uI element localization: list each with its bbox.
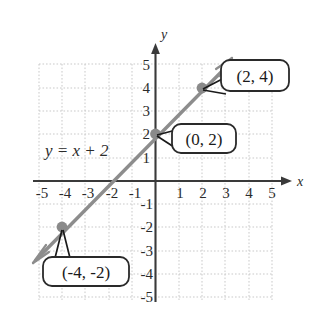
leader-line-neg4-neg2b bbox=[55, 230, 62, 258]
callout-label-0-2: (0, 2) bbox=[186, 130, 223, 149]
x-tick: 5 bbox=[268, 185, 276, 201]
y-tick: 1 bbox=[143, 150, 151, 166]
y-tick: -1 bbox=[141, 196, 154, 212]
y-tick: 5 bbox=[143, 57, 151, 73]
y-tick: 3 bbox=[143, 103, 151, 119]
x-axis-label: x bbox=[296, 174, 304, 189]
leader-line-neg4-neg2 bbox=[63, 230, 70, 258]
y-tick: -3 bbox=[141, 243, 154, 259]
callout-label-neg4-neg2: (-4, -2) bbox=[62, 263, 110, 282]
y-tick: -4 bbox=[141, 266, 154, 282]
y-tick: 4 bbox=[143, 80, 151, 96]
x-tick: 4 bbox=[245, 185, 253, 201]
x-tick: 1 bbox=[176, 185, 184, 201]
x-tick: -4 bbox=[59, 185, 72, 201]
leader-line-2-4b bbox=[203, 90, 226, 94]
x-tick: 2 bbox=[199, 185, 207, 201]
y-axis-arrowhead bbox=[151, 43, 160, 54]
x-tick: -1 bbox=[129, 185, 142, 201]
equation-label: y = x + 2 bbox=[43, 141, 109, 160]
callout-box-2-4: (2, 4) bbox=[221, 60, 289, 91]
callout-box-neg4-neg2: (-4, -2) bbox=[43, 257, 129, 286]
callout-label-2-4: (2, 4) bbox=[237, 67, 274, 86]
x-tick: -5 bbox=[36, 185, 49, 201]
y-tick: -2 bbox=[141, 219, 154, 235]
callout-box-0-2: (0, 2) bbox=[172, 124, 236, 153]
y-tick: 2 bbox=[143, 126, 151, 142]
graph-figure: (2, 4) (0, 2) (-4, -2) y = x + 2 x y -5 … bbox=[0, 0, 313, 312]
x-tick: 3 bbox=[222, 185, 230, 201]
x-tick: -3 bbox=[82, 185, 95, 201]
coordinate-plane-svg: (2, 4) (0, 2) (-4, -2) y = x + 2 x y -5 … bbox=[0, 0, 313, 312]
x-tick: -2 bbox=[106, 185, 119, 201]
y-axis-label: y bbox=[159, 27, 168, 42]
x-axis-arrowhead bbox=[281, 177, 292, 186]
y-tick: -5 bbox=[141, 289, 154, 305]
